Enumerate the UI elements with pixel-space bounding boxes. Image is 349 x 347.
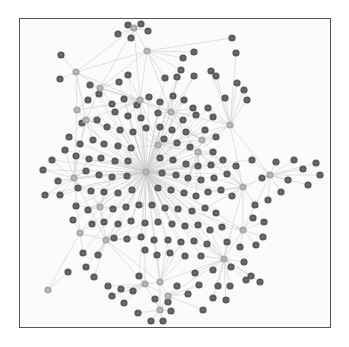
graph-node-core bbox=[116, 32, 119, 35]
graph-node-core bbox=[254, 243, 257, 246]
graph-node-core bbox=[183, 224, 186, 227]
graph-node-core bbox=[221, 158, 224, 161]
graph-node-core bbox=[150, 203, 153, 206]
graph-node-core bbox=[192, 50, 195, 53]
graph-node-core bbox=[211, 150, 214, 153]
graph-node-core bbox=[102, 190, 105, 193]
graph-node-core bbox=[117, 80, 120, 83]
graph-hub-node-core bbox=[268, 173, 271, 176]
graph-edge bbox=[100, 51, 147, 88]
graph-hub-node-core bbox=[46, 288, 49, 291]
graph-node-core bbox=[58, 77, 61, 80]
graph-hub-node-core bbox=[104, 238, 107, 241]
graph-hub-node-core bbox=[132, 26, 135, 29]
graph-node-core bbox=[102, 220, 105, 223]
graph-node-core bbox=[170, 128, 173, 131]
graph-node-core bbox=[211, 115, 214, 118]
graph-node-core bbox=[212, 176, 215, 179]
graph-node-core bbox=[95, 118, 98, 121]
graph-node-core bbox=[156, 186, 159, 189]
graph-node-core bbox=[122, 301, 125, 304]
graph-node-core bbox=[179, 240, 182, 243]
graph-hub-node-core bbox=[222, 257, 225, 260]
graph-node-core bbox=[242, 88, 245, 91]
graph-node-core bbox=[219, 188, 222, 191]
graph-node-core bbox=[41, 168, 44, 171]
graph-node-core bbox=[225, 240, 228, 243]
graph-node-core bbox=[89, 189, 92, 192]
graph-node-core bbox=[166, 300, 169, 303]
graph-node-core bbox=[125, 237, 128, 240]
graph-node-core bbox=[171, 94, 174, 97]
graph-node-core bbox=[146, 29, 149, 32]
graph-node-core bbox=[228, 284, 231, 287]
graph-edge bbox=[76, 51, 147, 72]
graph-edge bbox=[147, 51, 181, 70]
graph-node-core bbox=[161, 319, 164, 322]
graph-node-core bbox=[126, 159, 129, 162]
graph-node-core bbox=[86, 98, 89, 101]
graph-node-core bbox=[203, 128, 206, 131]
graph-node-core bbox=[194, 194, 197, 197]
graph-edge bbox=[243, 175, 270, 187]
network-graph bbox=[0, 0, 349, 347]
graph-hub-node-core bbox=[169, 110, 172, 113]
graph-node-core bbox=[143, 248, 146, 251]
graph-node-core bbox=[153, 297, 156, 300]
graph-edge bbox=[76, 28, 134, 72]
graph-edge bbox=[146, 76, 194, 172]
graph-node-core bbox=[97, 173, 100, 176]
graph-node-core bbox=[116, 222, 119, 225]
graph-node-core bbox=[214, 211, 217, 214]
graph-node-core bbox=[234, 51, 237, 54]
graph-node-core bbox=[211, 296, 214, 299]
graph-node-core bbox=[163, 206, 166, 209]
graph-node-core bbox=[183, 254, 186, 257]
graph-edge bbox=[48, 272, 68, 290]
graph-node-core bbox=[266, 198, 269, 201]
graph-node-core bbox=[129, 146, 132, 149]
graph-edge bbox=[140, 51, 147, 100]
graph-edge bbox=[225, 98, 230, 125]
graph-node-core bbox=[87, 157, 90, 160]
graph-node-core bbox=[261, 235, 264, 238]
graph-node-core bbox=[66, 270, 69, 273]
graph-node-core bbox=[174, 173, 177, 176]
graph-node-core bbox=[147, 95, 150, 98]
graph-hub-node-core bbox=[145, 49, 148, 52]
graph-node-core bbox=[230, 194, 233, 197]
graph-hub-node-core bbox=[144, 170, 147, 173]
graph-node-core bbox=[292, 158, 295, 161]
graph-node-core bbox=[162, 137, 165, 140]
graph-node-core bbox=[206, 106, 209, 109]
graph-node-core bbox=[286, 178, 289, 181]
graph-node-core bbox=[197, 283, 200, 286]
graph-node-core bbox=[116, 144, 119, 147]
graph-node-core bbox=[113, 110, 116, 113]
graph-hub-node-core bbox=[166, 294, 169, 297]
graph-node-core bbox=[118, 128, 121, 131]
graph-hub-node-core bbox=[84, 118, 87, 121]
graph-edge bbox=[80, 233, 106, 240]
graph-node-core bbox=[158, 125, 161, 128]
graph-hub-node-core bbox=[75, 108, 78, 111]
graph-node-core bbox=[191, 106, 194, 109]
graph-node-core bbox=[106, 284, 109, 287]
graph-node-core bbox=[209, 69, 212, 72]
graph-node-core bbox=[186, 292, 189, 295]
graph-node-core bbox=[253, 203, 256, 206]
graph-node-core bbox=[163, 76, 166, 79]
graph-node-core bbox=[156, 111, 159, 114]
graph-edge bbox=[230, 53, 236, 125]
graph-edge bbox=[147, 51, 183, 58]
graph-node-core bbox=[194, 113, 197, 116]
graph-node-core bbox=[205, 242, 208, 245]
graph-node-core bbox=[131, 130, 134, 133]
graph-node-core bbox=[214, 135, 217, 138]
graph-node-core bbox=[199, 178, 202, 181]
graph-node-core bbox=[182, 98, 185, 101]
graph-node-core bbox=[196, 164, 199, 167]
graph-node-core bbox=[125, 174, 128, 177]
graph-node-core bbox=[220, 225, 223, 228]
graph-node-core bbox=[91, 138, 94, 141]
